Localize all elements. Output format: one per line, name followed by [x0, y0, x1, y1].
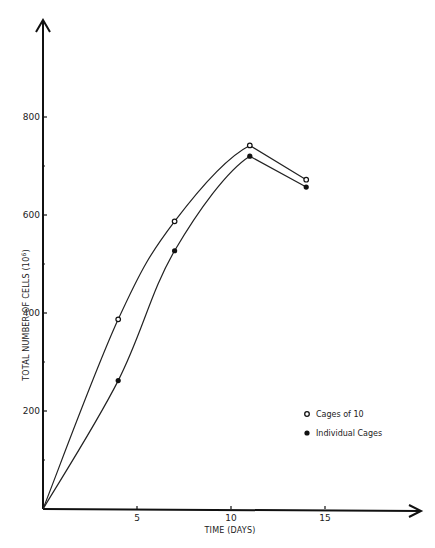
open-circle-marker-icon: [305, 412, 310, 417]
series-markers: [116, 143, 309, 383]
filled-circle-marker-icon: [304, 184, 309, 189]
legend-item-cages-of-10: Cages of 10: [305, 410, 364, 419]
open-circle-marker-icon: [304, 177, 309, 182]
open-circle-marker-icon: [172, 219, 177, 224]
filled-circle-marker-icon: [304, 430, 309, 435]
x-axis-ticks: 51015: [134, 506, 331, 523]
y-tick-label: 800: [23, 112, 40, 122]
legend-label: Individual Cages: [316, 429, 382, 438]
y-tick-label: 600: [23, 210, 40, 220]
open-circle-marker-icon: [248, 143, 253, 148]
filled-circle-marker-icon: [172, 248, 177, 253]
legend-label: Cages of 10: [316, 410, 364, 419]
series-line: [43, 156, 306, 509]
x-tick-label: 5: [134, 513, 140, 523]
legend-item-individual-cages: Individual Cages: [304, 429, 382, 438]
open-circle-marker-icon: [116, 317, 121, 322]
series-line: [43, 145, 306, 509]
x-tick-label: 10: [225, 513, 237, 523]
series-lines: [43, 145, 306, 509]
x-tick-label: 15: [319, 513, 330, 523]
y-tick-label: 200: [23, 406, 40, 416]
x-axis-title: TIME (DAYS): [203, 526, 255, 535]
filled-circle-marker-icon: [116, 378, 121, 383]
filled-circle-marker-icon: [247, 154, 252, 159]
legend: Cages of 10 Individual Cages: [304, 410, 382, 438]
chart: 200400600800 51015 TIME (DAYS) TOTAL NUM…: [0, 0, 435, 548]
x-axis: [43, 509, 420, 511]
y-axis-title: TOTAL NUMBER OF CELLS (106): [20, 249, 31, 382]
